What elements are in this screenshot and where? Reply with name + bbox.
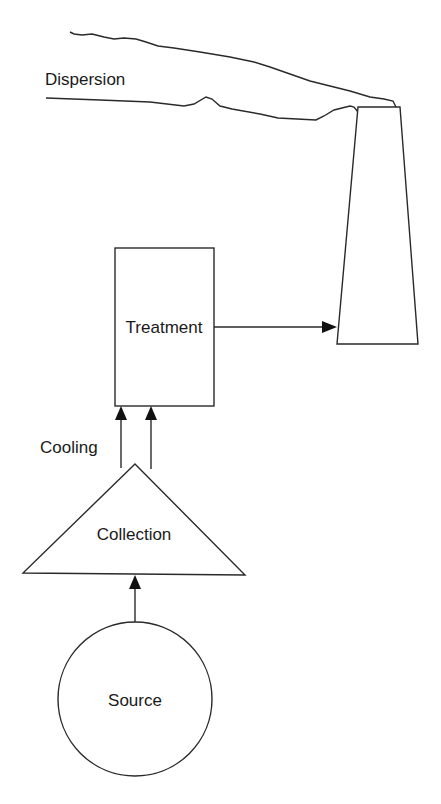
- dispersion-label: Dispersion: [45, 70, 125, 89]
- arrowhead-icon: [322, 321, 337, 333]
- arrowhead-icon: [115, 406, 127, 420]
- treatment-to-stack-arrow: [214, 321, 337, 333]
- plume-lower-edge: [46, 97, 358, 120]
- collection-triangle: [23, 464, 245, 575]
- arrowhead-icon: [129, 575, 141, 589]
- cooling-label: Cooling: [40, 438, 98, 457]
- air-pollution-control-diagram: Dispersion Treatment Cooling Collection …: [0, 0, 441, 804]
- collection-label: Collection: [97, 525, 172, 544]
- chimney-stack: [337, 107, 418, 344]
- arrowhead-icon: [145, 406, 157, 420]
- source-label: Source: [108, 691, 162, 710]
- treatment-label: Treatment: [126, 318, 203, 337]
- cooling-arrows: [115, 406, 157, 469]
- source-to-collection-arrow: [129, 575, 141, 622]
